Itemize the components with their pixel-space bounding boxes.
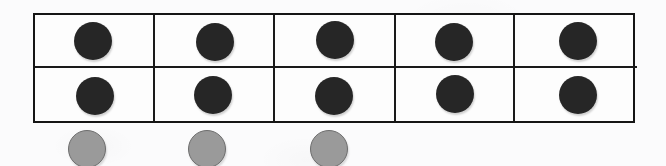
ten-frame-cell-r1c5[interactable]	[515, 15, 637, 68]
dark-counter[interactable]	[559, 22, 597, 60]
dark-counter[interactable]	[194, 76, 232, 114]
dark-counter[interactable]	[436, 75, 474, 113]
worksheet-canvas	[0, 0, 666, 166]
dark-counter[interactable]	[435, 23, 473, 61]
loose-counter-tray	[0, 130, 666, 166]
ten-frame-cell-r2c3[interactable]	[275, 68, 396, 121]
dark-counter[interactable]	[559, 76, 597, 114]
dark-counter[interactable]	[196, 23, 234, 61]
ten-frame-cell-r2c2[interactable]	[155, 68, 275, 121]
ten-frame-cell-r2c5[interactable]	[515, 68, 637, 121]
gray-counter-1[interactable]	[68, 130, 106, 166]
ten-frame-cell-r1c1[interactable]	[35, 15, 155, 68]
ten-frame-cell-r1c3[interactable]	[275, 15, 396, 68]
dark-counter[interactable]	[315, 77, 353, 115]
gray-counter-2[interactable]	[188, 130, 226, 166]
ten-frame-cell-r1c2[interactable]	[155, 15, 275, 68]
dark-counter[interactable]	[76, 77, 114, 115]
dark-counter[interactable]	[74, 22, 112, 60]
ten-frame-grid[interactable]	[33, 13, 635, 123]
gray-counter-3[interactable]	[310, 130, 348, 166]
ten-frame-cell-r2c4[interactable]	[396, 68, 515, 121]
ten-frame-cell-r2c1[interactable]	[35, 68, 155, 121]
dark-counter[interactable]	[316, 21, 354, 59]
ten-frame-cell-r1c4[interactable]	[396, 15, 515, 68]
